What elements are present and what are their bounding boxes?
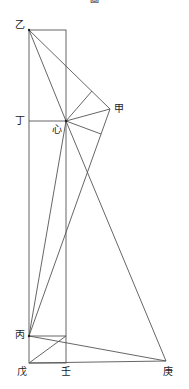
line-bing-xin [29, 121, 66, 336]
line-wu-rentop [29, 336, 66, 363]
point-yi [28, 29, 30, 31]
label-ren: 壬 [61, 367, 71, 377]
point-bing [28, 335, 30, 337]
line-yi-xin [29, 30, 66, 121]
geometry-diagram [0, 0, 189, 389]
label-wu: 戊 [17, 367, 27, 377]
line-xin-geng [66, 121, 166, 361]
line-jia-bing [29, 109, 110, 336]
line-xin-foot [66, 91, 92, 121]
line-yi-jia [29, 30, 110, 109]
label-geng: 庚 [163, 367, 173, 377]
main-rectangle [29, 30, 66, 363]
label-xin: 心 [52, 125, 62, 135]
label-jia: 甲 [114, 104, 124, 114]
line-xin-foot2 [66, 121, 101, 134]
label-bing: 丙 [15, 330, 25, 340]
label-ding: 丁 [15, 116, 25, 126]
line-wu-geng [29, 361, 166, 363]
point-xin [65, 120, 67, 122]
label-yi: 乙 [15, 20, 25, 30]
line-xin-jia [66, 109, 110, 121]
